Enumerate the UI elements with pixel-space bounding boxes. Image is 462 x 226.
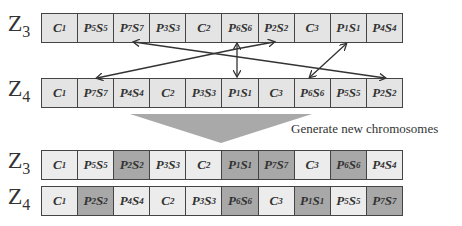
chromosome-z4-after: C1P2S2P4S4C2P3S3P6S6C3P1S1P5S5P7S7 <box>41 186 403 216</box>
label-z3-bottom: Z3 <box>0 147 38 178</box>
gene-cell: P5S5 <box>331 187 367 215</box>
down-arrow-triangle <box>130 114 312 143</box>
gene-cell: P7S7 <box>259 151 295 179</box>
gene-cell: C3 <box>259 187 295 215</box>
gene-cell: P5S5 <box>78 151 114 179</box>
gene-cell: C1 <box>42 187 78 215</box>
label-z4-bottom: Z4 <box>0 183 38 214</box>
chromosome-z3-after: C1P5S5P2S2P3S3C2P1S1P7S7C3P6S6P4S4 <box>41 150 403 180</box>
gene-cell: P1S1 <box>222 151 258 179</box>
gene-cell: P6S6 <box>222 187 258 215</box>
gene-cell: P3S3 <box>150 151 186 179</box>
caption-generate: Generate new chromosomes <box>291 121 438 137</box>
gene-cell: P7S7 <box>367 187 402 215</box>
gene-cell: P2S2 <box>78 187 114 215</box>
gene-cell: C3 <box>295 151 331 179</box>
gene-cell: C2 <box>186 151 222 179</box>
gene-cell: P6S6 <box>331 151 367 179</box>
gene-cell: C1 <box>42 151 78 179</box>
gene-cell: P2S2 <box>114 151 150 179</box>
gene-cell: P3S3 <box>186 187 222 215</box>
gene-cell: P4S4 <box>114 187 150 215</box>
gene-cell: C2 <box>150 187 186 215</box>
gene-cell: P1S1 <box>295 187 331 215</box>
gene-cell: P4S4 <box>367 151 402 179</box>
